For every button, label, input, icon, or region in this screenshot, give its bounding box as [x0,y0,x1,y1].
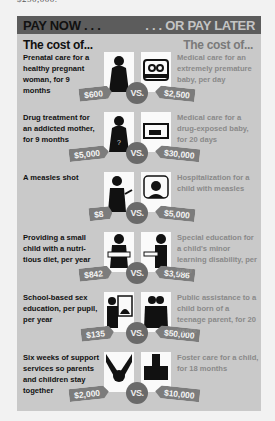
later-description: Hospitalization for a child with measles [177,172,259,194]
header-bar: PAY NOW . . . . . . OR PAY LATER [17,16,261,34]
vs-badge: VS. [126,382,148,404]
infographic-panel: PAY NOW . . . . . . OR PAY LATER The cos… [17,16,261,411]
now-price-tag: $135 [80,325,114,341]
now-description: Providing a small child with a nutri-tio… [23,232,99,265]
comparison-row: School-based sex education, per pupil, p… [17,292,261,352]
subheading-row: The cost of... The cost of... [17,34,261,52]
later-description: Medical care for a drug-exposed baby, fo… [177,112,259,145]
vs-badge: VS. [126,262,148,284]
pay-later-heading: . . . OR PAY LATER [145,18,255,33]
vs-badge: VS. [126,322,148,344]
now-price-tag: $842 [78,265,112,281]
comparison-row: Six weeks of support services so parents… [17,352,261,412]
cost-of-right-label: The cost of... [183,38,253,52]
later-description: Special education for a child's minor le… [177,232,259,276]
vs-badge: VS. [126,142,148,164]
later-price-tag: $10,000 [154,385,200,403]
comparison-row: A measles shot $8 VS. $5,000 Hospitaliza… [17,172,261,232]
vs-badge: VS. [126,82,148,104]
later-description: Public assistance to a child born of a t… [177,292,259,336]
later-price-tag: $2,500 [154,85,195,102]
now-description: A measles shot [23,172,99,183]
vs-badge: VS. [126,202,148,224]
cost-of-left-label: The cost of... [23,38,93,52]
svg-text:?: ? [117,139,121,146]
later-price-tag: $30,000 [154,145,200,163]
now-description: School-based sex education, per pupil, p… [23,292,99,325]
now-description: Drug treatment for an addicted mother, f… [23,112,99,145]
comparison-row: Drug treatment for an addicted mother, f… [17,112,261,172]
later-description: Foster care for a child, for 18 months [177,352,259,374]
comparison-row: Providing a small child with a nutri-tio… [17,232,261,292]
comparison-row: Prenatal care for a healthy pregnant wom… [17,52,261,112]
later-price-tag: $5,000 [154,205,195,222]
later-description: Medical care for an extremely premature … [177,52,259,85]
now-price-tag: $5,000 [68,145,109,162]
now-price-tag: $8 [88,206,113,221]
cropped-top-text: $250,000. [17,0,58,4]
pay-now-heading: PAY NOW . . . [23,18,101,33]
